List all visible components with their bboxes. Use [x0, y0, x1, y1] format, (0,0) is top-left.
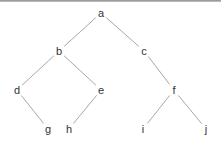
node-h: h — [66, 123, 72, 135]
tree-edges — [21, 18, 201, 124]
edge-d-g — [21, 96, 43, 124]
edge-b-e — [64, 56, 96, 85]
node-e: e — [98, 84, 104, 96]
edge-c-f — [148, 57, 169, 85]
node-j: j — [204, 123, 207, 135]
tree-nodes: a b c d e f g h i j — [14, 7, 207, 135]
node-b: b — [56, 45, 62, 57]
node-a: a — [98, 7, 105, 19]
edge-f-i — [147, 96, 169, 124]
edge-b-d — [22, 56, 54, 85]
node-i: i — [142, 123, 144, 135]
tree-diagram: a b c d e f g h i j — [0, 0, 221, 152]
node-f: f — [172, 84, 176, 96]
edge-e-h — [73, 95, 96, 123]
node-g: g — [45, 123, 51, 135]
edge-a-c — [106, 18, 139, 47]
node-c: c — [141, 45, 147, 57]
edge-a-b — [64, 18, 96, 47]
node-d: d — [14, 84, 20, 96]
edge-f-j — [178, 95, 201, 123]
